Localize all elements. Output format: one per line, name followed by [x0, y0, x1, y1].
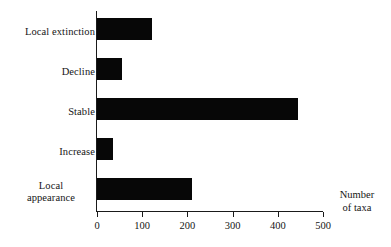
tick-label-0: 0	[77, 220, 117, 232]
category-label-increase: Increase	[7, 146, 95, 158]
tick-label-200: 200	[167, 220, 207, 232]
tick-label-100: 100	[122, 220, 162, 232]
tick-mark-300	[233, 212, 234, 217]
category-label-decline: Decline	[7, 66, 95, 78]
tick-mark-0	[97, 212, 98, 217]
value-axis-line	[97, 211, 323, 212]
tick-mark-200	[187, 212, 188, 217]
tick-label-400: 400	[258, 220, 298, 232]
category-axis-line	[96, 11, 97, 212]
bar-local-appearance	[97, 178, 192, 200]
bar-stable	[97, 98, 298, 120]
plot-area	[97, 11, 323, 211]
category-label-local-extinction: Local extinction	[7, 26, 95, 38]
bar-decline	[97, 58, 122, 80]
tick-mark-500	[323, 212, 324, 217]
tick-mark-400	[278, 212, 279, 217]
value-axis-title: Number of taxa	[326, 189, 388, 214]
tick-label-500: 500	[303, 220, 343, 232]
bar-chart: Local extinction Decline Stable Increase…	[0, 0, 391, 247]
category-label-local-appearance: Local appearance	[7, 180, 95, 203]
bar-increase	[97, 138, 113, 160]
tick-label-300: 300	[213, 220, 253, 232]
bar-local-extinction	[97, 18, 152, 40]
category-label-stable: Stable	[7, 106, 95, 118]
tick-mark-100	[142, 212, 143, 217]
